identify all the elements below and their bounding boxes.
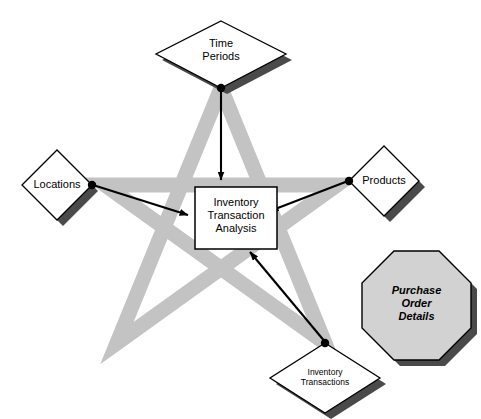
locations-diamond [22, 150, 92, 220]
node-inventory-transactions[interactable] [270, 343, 386, 419]
center-rectangle [195, 187, 277, 249]
node-time-periods[interactable] [156, 21, 292, 94]
dot-products [345, 177, 353, 185]
time-periods-diamond [156, 21, 286, 88]
star-schema-diagram [0, 0, 481, 419]
dot-inventory-transactions [321, 339, 329, 347]
node-products[interactable] [349, 146, 425, 222]
inventory-transactions-diamond [270, 343, 380, 413]
products-diamond [349, 146, 419, 216]
dot-locations [88, 181, 96, 189]
node-center-fact[interactable] [195, 187, 277, 249]
node-purchase-order-details[interactable] [362, 251, 477, 366]
dot-time-periods [217, 84, 225, 92]
diagram-canvas: Time Periods Locations Products Inventor… [0, 0, 481, 419]
purchase-order-details-octagon [362, 251, 471, 360]
node-locations[interactable] [22, 150, 98, 226]
